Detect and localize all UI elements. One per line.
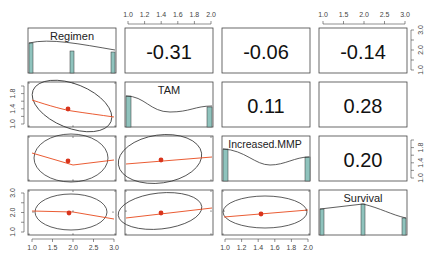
var-label-survival: Survival (343, 192, 382, 204)
left-axis-tam-labels: 1.0 1.4 1.8 (9, 89, 16, 129)
bottom-axis-regimen (32, 239, 114, 242)
panel-scatter-tam-mmp (115, 129, 213, 188)
pairs-plot: Regimen -0.31 -0.06 -0.14 TAM 0.11 (0, 0, 433, 262)
svg-text:1.0: 1.0 (9, 119, 16, 129)
svg-text:1.0: 1.0 (9, 227, 16, 237)
panel-scatter-tam-survival (116, 189, 213, 235)
svg-text:3.0: 3.0 (400, 11, 410, 18)
svg-text:1.4: 1.4 (9, 104, 16, 114)
panel-scatter-regimen-tam (25, 70, 119, 142)
svg-text:1.5: 1.5 (48, 244, 58, 251)
tick-label: 1.6 (270, 244, 280, 251)
top-axis-survival (323, 21, 405, 24)
tick-label: 1.2 (237, 244, 247, 251)
tick-label: 1.4 (417, 158, 424, 168)
left-axis-survival (21, 193, 24, 232)
panel-scatter-regimen-mmp (28, 134, 116, 182)
panel-corr-tam-survival: 0.28 (319, 82, 407, 127)
svg-text:3.0: 3.0 (109, 244, 119, 251)
bottom-axis-regimen-labels: 1.0 1.5 2.0 2.5 3.0 (27, 244, 119, 251)
svg-text:2.0: 2.0 (68, 244, 78, 251)
corr-value: -0.31 (146, 41, 192, 63)
tick-label: 2.0 (303, 244, 313, 251)
right-axis-regimen (411, 30, 414, 70)
svg-text:1.0: 1.0 (318, 11, 328, 18)
panel-corr-regimen-mmp: -0.06 (222, 28, 310, 73)
svg-text:2.0: 2.0 (417, 45, 424, 55)
var-label-tam: TAM (158, 84, 180, 96)
left-axis-tam (21, 86, 24, 124)
svg-text:1.0: 1.0 (417, 65, 424, 75)
panel-corr-regimen-tam: -0.31 (125, 28, 213, 73)
bottom-axis-mmp (225, 239, 308, 242)
panel-scatter-mmp-survival (222, 190, 310, 235)
tick-label: 1.4 (253, 244, 263, 251)
tick-label: 1.8 (287, 244, 297, 251)
left-axis-survival-labels: 1.0 2.0 3.0 (9, 188, 16, 237)
panel-corr-mmp-survival: 0.20 (319, 136, 407, 181)
svg-text:2.0: 2.0 (359, 11, 369, 18)
panel-hist-increased-mmp: Increased.MMP (222, 136, 310, 181)
svg-text:1.2: 1.2 (140, 11, 150, 18)
top-axis-survival-labels: 1.0 1.5 2.0 2.5 3.0 (318, 11, 410, 18)
svg-text:2.0: 2.0 (206, 11, 216, 18)
corr-value: 0.20 (344, 149, 383, 171)
svg-text:1.6: 1.6 (173, 11, 183, 18)
svg-text:1.0: 1.0 (123, 11, 133, 18)
panel-hist-survival: Survival (319, 190, 407, 235)
panel-corr-regimen-survival: -0.14 (319, 28, 407, 73)
panel-hist-tam: TAM (125, 82, 213, 127)
svg-text:2.5: 2.5 (89, 244, 99, 251)
svg-text:1.8: 1.8 (190, 11, 200, 18)
svg-text:1.8: 1.8 (9, 89, 16, 99)
right-axis-mmp (411, 140, 414, 178)
svg-text:1.0: 1.0 (417, 173, 424, 183)
tick-label: 1.8 (417, 143, 424, 153)
var-label-regimen: Regimen (50, 30, 94, 42)
svg-text:1.0: 1.0 (220, 244, 230, 251)
svg-text:3.0: 3.0 (9, 188, 16, 198)
bottom-axis-mmp-labels: 1.0 (220, 244, 230, 251)
top-axis-tam-labels: 1.0 1.2 1.4 1.6 1.8 2.0 (123, 11, 216, 18)
panel-hist-regimen: Regimen (28, 28, 116, 73)
right-axis-mmp-labels: 1.0 1.41.8 (417, 143, 424, 183)
right-axis-regimen-labels: 1.0 2.0 3.0 (417, 25, 424, 75)
corr-value: -0.14 (340, 41, 386, 63)
corr-value: 0.11 (247, 95, 284, 117)
svg-text:1.4: 1.4 (156, 11, 166, 18)
corr-value: -0.06 (243, 41, 289, 63)
panel-scatter-regimen-survival (28, 190, 116, 235)
var-label-increased-mmp: Increased.MMP (228, 138, 302, 150)
svg-text:3.0: 3.0 (417, 25, 424, 35)
svg-text:2.5: 2.5 (380, 11, 390, 18)
svg-text:1.5: 1.5 (339, 11, 349, 18)
panel-corr-tam-mmp: 0.11 (222, 82, 310, 127)
svg-text:2.0: 2.0 (9, 208, 16, 218)
top-axis-tam (128, 21, 211, 24)
corr-value: 0.28 (344, 95, 383, 117)
bottom-axis-mmp-labels-static: 1.21.41.61.82.0 (237, 244, 313, 251)
svg-text:1.0: 1.0 (27, 244, 37, 251)
